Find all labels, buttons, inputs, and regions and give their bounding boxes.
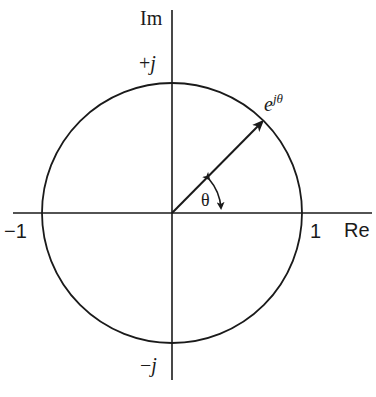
angle-arc [209, 179, 221, 208]
unit-circle-diagram: Im Re 1 −1 +j −j ejθ θ [0, 0, 376, 397]
tick-label-minus-one: −1 [4, 220, 27, 242]
tick-label-plus-j: +j [139, 52, 156, 75]
tick-label-minus-j: −j [140, 354, 157, 377]
tick-label-plus-one: 1 [310, 220, 321, 242]
angle-label: θ [201, 190, 210, 210]
imag-axis-label: Im [140, 7, 163, 29]
real-axis-label: Re [344, 219, 370, 241]
phasor-arrow [172, 122, 262, 213]
phasor-label: ejθ [264, 91, 284, 115]
